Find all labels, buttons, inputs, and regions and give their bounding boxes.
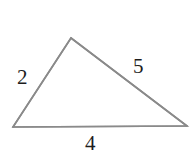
triangle-shape: [0, 0, 194, 164]
triangle-edge-bottom: [13, 126, 187, 127]
side-length-label-right: 5: [133, 56, 144, 77]
side-length-label-left: 2: [17, 67, 28, 88]
side-length-label-bottom: 4: [85, 133, 96, 154]
triangle-figure: 2 5 4: [0, 0, 194, 164]
triangle-outline: [13, 38, 187, 127]
